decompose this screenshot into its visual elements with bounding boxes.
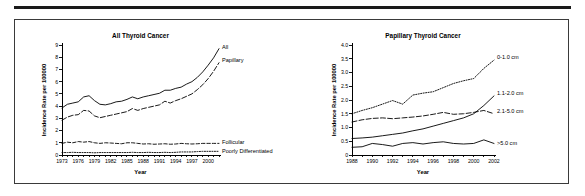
- x-axis-title: Year: [134, 169, 147, 175]
- top-horizontal-rule: [14, 6, 571, 9]
- x-axis-title: Year: [417, 169, 430, 175]
- series-line: [62, 151, 219, 152]
- y-tick-label: 8: [55, 54, 58, 60]
- y-tick-label: 1.0: [341, 124, 348, 130]
- y-tick-label: 1: [55, 140, 58, 146]
- x-tick-label: 1997: [186, 158, 198, 164]
- series-label: 1.1-2.0 cm: [497, 90, 524, 96]
- figure-container: All Thyroid Cancer0123456789197319761979…: [0, 0, 585, 196]
- y-tick-label: 9: [55, 42, 58, 48]
- series-line: [352, 140, 494, 147]
- series-label: Follicular: [222, 139, 245, 145]
- x-tick-label: 2002: [488, 158, 500, 164]
- x-tick-label: 1988: [346, 158, 358, 164]
- y-axis-title: Incidence Rate per 100000: [331, 64, 337, 137]
- x-tick-label: 2000: [202, 158, 214, 164]
- x-tick-label: 1998: [448, 158, 460, 164]
- y-tick-label: 4: [55, 103, 58, 109]
- x-tick-label: 1994: [407, 158, 419, 164]
- y-tick-label: 0: [345, 152, 348, 158]
- x-tick-label: 1988: [137, 158, 149, 164]
- x-tick-label: 1991: [154, 158, 166, 164]
- chart-title: All Thyroid Cancer: [112, 32, 169, 40]
- series-label: Poorly Differentiated: [222, 148, 273, 154]
- series-line: [62, 63, 219, 120]
- series-line: [352, 60, 494, 114]
- y-tick-label: 0.5: [341, 138, 348, 144]
- y-tick-label: 1.5: [341, 111, 348, 117]
- y-tick-label: 4.0: [341, 42, 348, 48]
- series-label: All: [222, 44, 228, 50]
- x-tick-label: 1985: [121, 158, 133, 164]
- axes: [62, 43, 221, 155]
- x-tick-label: 1996: [427, 158, 439, 164]
- y-tick-label: 3: [55, 115, 58, 121]
- chart-panel-papillary-thyroid-cancer: Papillary Thyroid Cancer00.51.01.52.02.5…: [304, 19, 569, 184]
- x-tick-label: 1994: [170, 158, 182, 164]
- y-tick-label: 0: [55, 152, 58, 158]
- y-tick-label: 5: [55, 91, 58, 97]
- x-tick-label: 2000: [468, 158, 480, 164]
- y-tick-label: 3.5: [341, 56, 348, 62]
- all-thyroid-cancer-plot: All Thyroid Cancer0123456789197319761979…: [14, 19, 304, 184]
- y-tick-label: 6: [55, 79, 58, 85]
- series-line: [62, 142, 219, 145]
- papillary-thyroid-cancer-plot: Papillary Thyroid Cancer00.51.01.52.02.5…: [304, 19, 569, 184]
- series-label: 2.1-5.0 cm: [497, 108, 524, 114]
- y-tick-label: 2.0: [341, 97, 348, 103]
- series-label: Papillary: [222, 57, 244, 63]
- x-tick-label: 1973: [56, 158, 68, 164]
- y-axis-title: Incidence Rate per 100000: [41, 64, 47, 137]
- x-tick-label: 1982: [105, 158, 117, 164]
- series-line: [352, 110, 494, 122]
- series-label: >5.0 cm: [497, 140, 517, 146]
- x-tick-label: 1979: [89, 158, 101, 164]
- x-tick-label: 1992: [387, 158, 399, 164]
- chart-title: Papillary Thyroid Cancer: [385, 32, 461, 40]
- series-label: 0-1.0 cm: [497, 54, 519, 60]
- x-tick-label: 1976: [72, 158, 84, 164]
- y-tick-label: 3.0: [341, 69, 348, 75]
- x-tick-label: 1990: [367, 158, 379, 164]
- series-line: [62, 49, 219, 108]
- charts-row: All Thyroid Cancer0123456789197319761979…: [14, 19, 569, 184]
- series-line: [352, 96, 494, 139]
- y-tick-label: 2: [55, 127, 58, 133]
- axes: [352, 43, 496, 155]
- chart-panel-all-thyroid-cancer: All Thyroid Cancer0123456789197319761979…: [14, 19, 304, 184]
- y-tick-label: 7: [55, 66, 58, 72]
- y-tick-label: 2.5: [341, 83, 348, 89]
